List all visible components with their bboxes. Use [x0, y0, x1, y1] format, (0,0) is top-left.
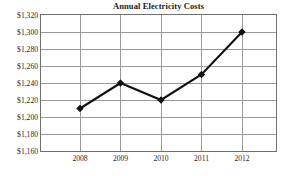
chart-screenshot: Annual Electricity Costs $1,320$1,300$1,… [0, 0, 287, 176]
x-axis-tick-label: 2009 [113, 154, 128, 163]
line-series [41, 15, 276, 151]
y-axis-tick-label: $1,180 [0, 130, 38, 139]
y-axis-tick-label: $1,240 [0, 79, 38, 88]
x-axis-tick-label: 2012 [234, 154, 249, 163]
page-title: Annual Electricity Costs [40, 1, 277, 11]
x-axis-tick-label: 2010 [153, 154, 168, 163]
x-axis-labels: 20082009201020112012 [40, 154, 277, 168]
y-axis-tick-label: $1,280 [0, 45, 38, 54]
y-axis-tick-label: $1,200 [0, 113, 38, 122]
y-axis-tick-label: $1,160 [0, 147, 38, 156]
y-axis-tick-label: $1,300 [0, 28, 38, 37]
y-axis-tick-label: $1,320 [0, 11, 38, 20]
y-axis-tick-label: $1,260 [0, 62, 38, 71]
y-axis-labels: $1,320$1,300$1,280$1,260$1,240$1,220$1,2… [0, 14, 38, 152]
x-axis-tick-label: 2011 [194, 154, 209, 163]
y-axis-tick-label: $1,220 [0, 96, 38, 105]
plot-area [40, 14, 277, 152]
x-axis-tick-label: 2008 [72, 154, 87, 163]
